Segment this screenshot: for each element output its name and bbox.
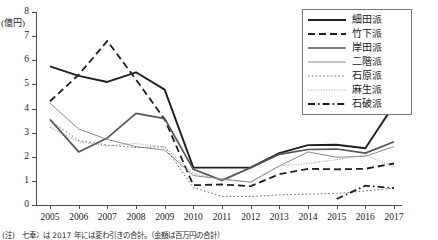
x-tick-label: 2011 bbox=[213, 212, 232, 222]
legend-item-4[interactable]: 石原派 bbox=[307, 69, 407, 83]
x-tick-label: 2007 bbox=[98, 212, 117, 222]
x-tick bbox=[165, 205, 166, 209]
y-tick-label: 6 bbox=[24, 55, 29, 65]
y-tick-label: 8 bbox=[24, 7, 29, 17]
legend-item-2[interactable]: 岸田派 bbox=[307, 41, 407, 55]
x-tick bbox=[50, 205, 51, 209]
series-line bbox=[50, 103, 394, 182]
legend-label: 岸田派 bbox=[352, 42, 382, 54]
x-tick-label: 2008 bbox=[127, 212, 146, 222]
series-line bbox=[50, 113, 394, 180]
legend-line-swatch bbox=[307, 84, 347, 96]
x-tick-label: 2012 bbox=[241, 212, 260, 222]
legend-item-1[interactable]: 竹下派 bbox=[307, 27, 407, 41]
x-tick-label: 2015 bbox=[327, 212, 346, 222]
x-tick bbox=[79, 205, 80, 209]
x-tick bbox=[107, 205, 108, 209]
series-line bbox=[337, 186, 394, 199]
legend-item-5[interactable]: 麻生派 bbox=[307, 83, 407, 97]
y-tick-label: 2 bbox=[24, 152, 29, 162]
legend-line-swatch bbox=[307, 28, 347, 40]
legend-item-0[interactable]: 細田派 bbox=[307, 13, 407, 27]
series-line bbox=[50, 127, 394, 182]
legend-line-swatch bbox=[307, 14, 347, 26]
x-tick-label: 2010 bbox=[184, 212, 203, 222]
y-tick-label: 1 bbox=[24, 176, 29, 186]
legend-label: 細田派 bbox=[352, 14, 382, 26]
x-tick-label: 2006 bbox=[69, 212, 88, 222]
legend-item-6[interactable]: 石破派 bbox=[307, 97, 407, 111]
legend-line-swatch bbox=[307, 42, 347, 54]
x-tick bbox=[193, 205, 194, 209]
y-tick-label: 0 bbox=[24, 200, 29, 210]
x-tick-label: 2014 bbox=[299, 212, 318, 222]
x-tick-label: 2013 bbox=[270, 212, 289, 222]
x-tick bbox=[308, 205, 309, 209]
legend-label: 麻生派 bbox=[352, 84, 382, 96]
x-tick bbox=[222, 205, 223, 209]
legend-line-swatch bbox=[307, 98, 347, 110]
x-axis-line bbox=[36, 205, 402, 206]
y-tick-label: 7 bbox=[24, 31, 29, 41]
legend-line-swatch bbox=[307, 70, 347, 82]
x-tick-label: 2016 bbox=[356, 212, 375, 222]
y-tick bbox=[32, 205, 36, 206]
chart-figure: (億円) 012345678 2005200620072008200920102… bbox=[0, 0, 438, 240]
y-axis-unit-label: (億円) bbox=[1, 18, 25, 28]
y-tick-label: 5 bbox=[24, 79, 29, 89]
chart-footnote: (注) 七奉冫は 2017 年には変わ引きの合計。（金額は百万円の合計） bbox=[2, 231, 224, 240]
x-tick bbox=[394, 205, 395, 209]
x-tick bbox=[279, 205, 280, 209]
x-tick-label: 2009 bbox=[155, 212, 174, 222]
legend-label: 石破派 bbox=[352, 98, 382, 110]
legend-label: 二階派 bbox=[352, 56, 382, 68]
legend-label: 竹下派 bbox=[352, 28, 382, 40]
x-tick-label: 2005 bbox=[41, 212, 60, 222]
chart-legend: 細田派竹下派岸田派二階派石原派麻生派石破派 bbox=[302, 9, 412, 115]
x-tick bbox=[136, 205, 137, 209]
legend-line-swatch bbox=[307, 56, 347, 68]
x-tick bbox=[337, 205, 338, 209]
legend-label: 石原派 bbox=[352, 70, 382, 82]
legend-item-3[interactable]: 二階派 bbox=[307, 55, 407, 69]
y-tick-label: 3 bbox=[24, 128, 29, 138]
x-tick bbox=[365, 205, 366, 209]
x-tick-label: 2017 bbox=[385, 212, 404, 222]
x-tick bbox=[251, 205, 252, 209]
y-tick-label: 4 bbox=[24, 104, 29, 114]
